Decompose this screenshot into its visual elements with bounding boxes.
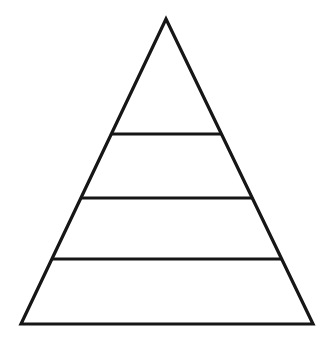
pyramid-diagram: [0, 0, 336, 350]
pyramid-outline: [21, 19, 313, 324]
pyramid-svg: [0, 0, 336, 350]
